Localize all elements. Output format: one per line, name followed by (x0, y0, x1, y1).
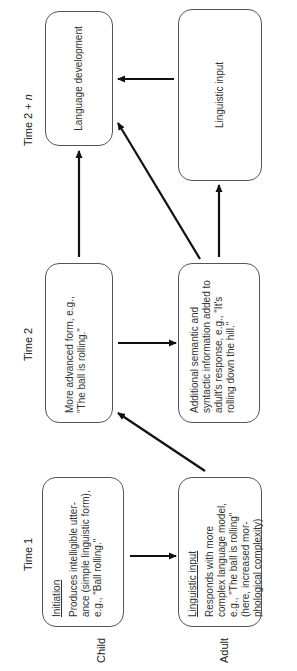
arrows-layer (0, 0, 297, 671)
arrow-adult-time2-to-child-time2n (118, 123, 200, 259)
arrow-adult-time1-to-child-time2 (118, 413, 205, 471)
diagram-stage: Time 1 Time 2 Time 2 + n Child Adult Ini… (0, 0, 297, 671)
diagram-rotated-canvas: Time 1 Time 2 Time 2 + n Child Adult Ini… (0, 0, 297, 671)
